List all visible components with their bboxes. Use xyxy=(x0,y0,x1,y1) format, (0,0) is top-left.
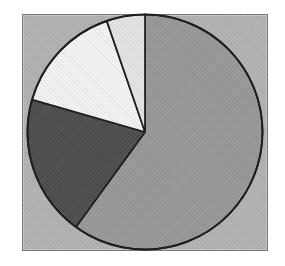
pie-chart xyxy=(0,0,285,266)
figure-page xyxy=(0,0,285,266)
